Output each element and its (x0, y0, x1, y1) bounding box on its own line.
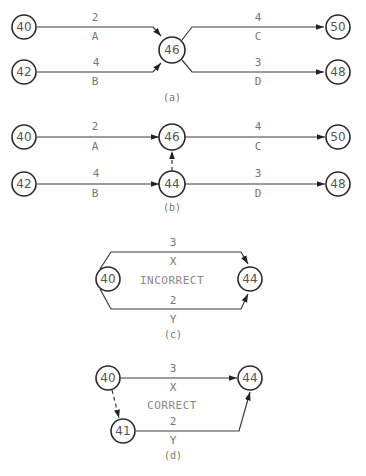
dummy-edge-40-41 (112, 390, 119, 418)
activity-x: X (170, 381, 177, 394)
node-40: 40 (96, 366, 120, 390)
correct-label: CORRECT (147, 399, 197, 412)
panel-d: 3 X CORRECT 2 Y 40 41 44 (d) (96, 362, 262, 461)
duration-x: 3 (170, 236, 177, 249)
edge-c (182, 27, 324, 40)
panel-b: 2 A 4 B 4 C 3 D 40 42 46 44 50 48 (b) (12, 120, 350, 213)
svg-text:50: 50 (330, 20, 345, 34)
node-48: 48 (326, 172, 350, 196)
svg-text:40: 40 (100, 371, 115, 385)
caption-b: (b) (163, 202, 181, 213)
activity-a: A (92, 30, 99, 43)
activity-b: B (92, 75, 99, 88)
svg-text:44: 44 (164, 177, 179, 191)
node-42: 42 (12, 172, 36, 196)
panel-c: 3 X INCORRECT 2 Y 40 44 (c) (96, 236, 262, 340)
node-40: 40 (12, 125, 36, 149)
svg-text:50: 50 (330, 130, 345, 144)
activity-a: A (92, 140, 99, 153)
duration-d: 3 (255, 167, 262, 180)
activity-y: Y (170, 313, 177, 326)
node-40: 40 (96, 267, 120, 291)
activity-b: B (92, 187, 99, 200)
svg-text:40: 40 (16, 20, 31, 34)
svg-text:40: 40 (16, 130, 31, 144)
node-50: 50 (326, 125, 350, 149)
svg-text:40: 40 (100, 272, 115, 286)
svg-text:41: 41 (115, 424, 130, 438)
node-42: 42 (12, 60, 36, 84)
node-44: 44 (159, 171, 185, 197)
svg-text:48: 48 (330, 177, 345, 191)
caption-c: (c) (164, 329, 182, 340)
node-44: 44 (238, 366, 262, 390)
duration-x: 3 (170, 362, 177, 375)
svg-text:46: 46 (164, 130, 179, 144)
edge-a (37, 27, 161, 36)
node-41: 41 (111, 419, 135, 443)
duration-a: 2 (92, 120, 99, 133)
activity-network-diagram: 2 A 4 B 4 C 3 D 40 42 46 50 48 (a) 2 A 4… (0, 0, 366, 476)
duration-y: 2 (170, 294, 177, 307)
activity-c: C (255, 30, 262, 43)
duration-b: 4 (93, 167, 100, 180)
edge-d (182, 60, 324, 72)
activity-d: D (255, 187, 262, 200)
svg-text:44: 44 (242, 272, 257, 286)
duration-y: 2 (170, 415, 177, 428)
incorrect-label: INCORRECT (140, 274, 204, 287)
svg-text:42: 42 (16, 65, 31, 79)
activity-d: D (255, 75, 262, 88)
panel-a: 2 A 4 B 4 C 3 D 40 42 46 50 48 (a) (12, 11, 350, 103)
svg-text:46: 46 (164, 43, 179, 57)
duration-b: 4 (93, 56, 100, 69)
activity-x: X (170, 255, 177, 268)
svg-text:42: 42 (16, 177, 31, 191)
caption-a: (a) (163, 92, 181, 103)
activity-c: C (255, 140, 262, 153)
node-46: 46 (159, 37, 185, 63)
duration-a: 2 (92, 11, 99, 24)
node-50: 50 (326, 15, 350, 39)
node-46: 46 (159, 124, 185, 150)
caption-d: (d) (164, 450, 182, 461)
duration-c: 4 (255, 11, 262, 24)
activity-y: Y (170, 434, 177, 447)
node-44: 44 (238, 267, 262, 291)
svg-text:44: 44 (242, 371, 257, 385)
node-48: 48 (326, 60, 350, 84)
svg-text:48: 48 (330, 65, 345, 79)
duration-c: 4 (255, 120, 262, 133)
duration-d: 3 (255, 56, 262, 69)
node-40: 40 (12, 15, 36, 39)
